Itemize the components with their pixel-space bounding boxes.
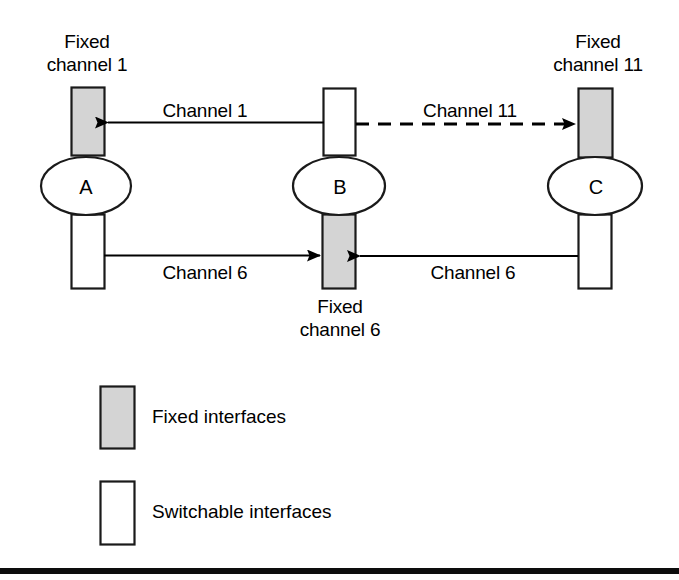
node-b-letter: B <box>333 176 346 199</box>
label-fixed-channel-1: Fixed channel 1 <box>47 30 128 76</box>
interface-a-bottom-switchable <box>72 215 105 289</box>
interface-c-top-fixed <box>579 89 613 158</box>
label-fixed-channel-11-line2: channel 11 <box>553 53 643 76</box>
node-c-letter: C <box>589 176 603 199</box>
label-fixed-channel-6-line2: channel 6 <box>300 318 381 341</box>
interface-b-top-switchable <box>324 89 356 156</box>
label-fixed-channel-11-line1: Fixed <box>553 30 643 53</box>
legend-fixed-swatch <box>101 387 135 449</box>
label-fixed-channel-6: Fixed channel 6 <box>300 295 381 341</box>
interface-b-bottom-fixed <box>323 215 356 289</box>
legend-fixed-label: Fixed interfaces <box>152 406 286 428</box>
figure-canvas: Fixed channel 1 Fixed channel 11 Fixed c… <box>0 0 679 580</box>
node-a-letter: A <box>79 176 92 199</box>
label-fixed-channel-6-line1: Fixed <box>300 295 381 318</box>
label-fixed-channel-11: Fixed channel 11 <box>553 30 643 76</box>
link-channel-6-right-label: Channel 6 <box>431 261 516 284</box>
link-channel-1-label: Channel 1 <box>163 99 248 122</box>
footer-rule <box>0 568 679 574</box>
link-channel-11-label: Channel 11 <box>423 99 517 122</box>
label-fixed-channel-1-line1: Fixed <box>47 30 128 53</box>
interface-a-top-fixed <box>72 88 105 156</box>
legend-switchable-swatch <box>101 482 135 545</box>
link-channel-6-left-label: Channel 6 <box>163 261 248 284</box>
label-fixed-channel-1-line2: channel 1 <box>47 53 128 76</box>
legend-switchable-label: Switchable interfaces <box>152 501 332 523</box>
interface-c-bottom-switchable <box>579 215 612 289</box>
network-diagram-graphic <box>0 0 679 580</box>
